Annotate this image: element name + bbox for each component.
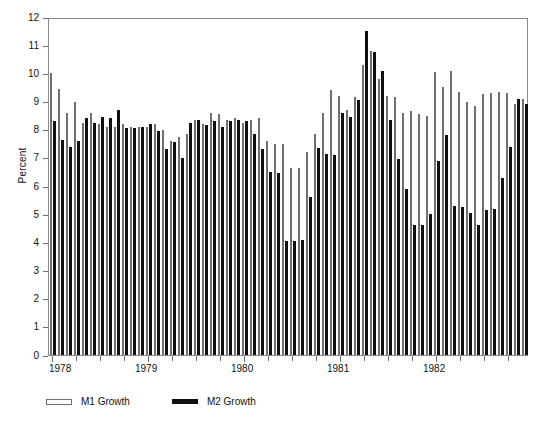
x-axis-tick (388, 356, 389, 361)
bar-m2 (93, 123, 96, 355)
bar-m1 (122, 124, 125, 355)
bar-m1 (202, 124, 205, 355)
bar-m2 (285, 241, 288, 355)
bar-m2 (325, 154, 328, 355)
bar-m1 (522, 99, 525, 355)
bar-m2 (525, 104, 528, 355)
bar-m2 (357, 100, 360, 355)
bar-m2 (309, 197, 312, 355)
bar-m1 (474, 106, 477, 355)
bar-m2 (389, 120, 392, 355)
bar-m1 (98, 124, 101, 355)
bar-m2 (173, 142, 176, 355)
bar-m2 (397, 159, 400, 355)
bar-m2 (445, 135, 448, 355)
x-axis-tick-label: 1978 (49, 363, 71, 374)
bar-m1 (306, 152, 309, 355)
y-axis-tick: 0 (0, 356, 48, 357)
bar-m1 (66, 113, 69, 355)
y-axis-tick-label: 5 (33, 208, 39, 221)
x-axis-tick (436, 356, 437, 362)
bar-m1 (346, 110, 349, 355)
bar-m2 (277, 173, 280, 355)
y-axis-tick-label: 1 (33, 320, 39, 333)
bar-m1 (218, 114, 221, 355)
bar-m1 (386, 96, 389, 355)
bar-m1 (82, 123, 85, 355)
bar-m1 (186, 134, 189, 355)
bar-m2 (77, 141, 80, 355)
bar-m2 (85, 118, 88, 355)
bar-m1 (130, 127, 133, 355)
bar-m2 (381, 71, 384, 355)
bar-m1 (514, 104, 517, 355)
bar-m1 (322, 113, 325, 355)
y-axis-tick: 1 (0, 327, 48, 328)
bar-m2 (117, 110, 120, 355)
bar-m1 (442, 87, 445, 355)
x-axis-tick (244, 356, 245, 362)
chart-legend: M1 Growth M2 Growth (46, 396, 256, 407)
plot-area (48, 18, 528, 356)
bar-m2 (149, 124, 152, 355)
bar-m2 (197, 120, 200, 355)
bar-m2 (133, 128, 136, 355)
bar-m2 (181, 158, 184, 355)
bar-m2 (101, 117, 104, 355)
bar-m1 (434, 72, 437, 355)
bar-m1 (258, 118, 261, 355)
bar-m2 (477, 225, 480, 355)
bar-m2 (229, 121, 232, 355)
x-axis-tick-label: 1981 (327, 363, 349, 374)
x-axis-tick (508, 356, 509, 361)
bar-m2 (341, 113, 344, 355)
bar-m2 (485, 210, 488, 355)
bar-m1 (370, 51, 373, 355)
x-axis-tick (76, 356, 77, 361)
y-axis-tick: 11 (0, 46, 48, 47)
bar-m2 (125, 128, 128, 355)
legend-label-m2: M2 Growth (207, 396, 256, 407)
x-axis-tick (364, 356, 365, 361)
bar-m2 (493, 209, 496, 355)
bar-m2 (469, 213, 472, 355)
x-axis-tick (268, 356, 269, 361)
bar-m2 (373, 52, 376, 355)
bar-m2 (269, 172, 272, 355)
x-axis-tick (484, 356, 485, 361)
bar-series-container (49, 19, 527, 355)
x-axis-tick (148, 356, 149, 362)
x-axis-tick (100, 356, 101, 361)
bar-m1 (450, 71, 453, 355)
bar-m2 (453, 206, 456, 355)
bar-m1 (162, 130, 165, 355)
x-axis-tick (340, 356, 341, 362)
x-axis-tick (172, 356, 173, 361)
bar-m1 (106, 127, 109, 355)
bar-m2 (349, 117, 352, 355)
bar-m1 (498, 92, 501, 355)
legend-swatch-m2-icon (172, 399, 198, 404)
x-axis-tick (124, 356, 125, 361)
bar-m2 (261, 149, 264, 355)
bar-m2 (301, 240, 304, 355)
legend-item-m2: M2 Growth (172, 396, 256, 407)
y-axis-tick-label: 2 (33, 292, 39, 305)
bar-m1 (250, 120, 253, 355)
bar-m1 (178, 137, 181, 355)
bar-m2 (213, 121, 216, 355)
bar-m2 (429, 214, 432, 355)
x-axis-tick (52, 356, 53, 362)
y-axis-tick: 5 (0, 215, 48, 216)
x-axis-tick (292, 356, 293, 361)
bar-m1 (426, 116, 429, 355)
bar-m2 (405, 189, 408, 355)
bar-m1 (298, 168, 301, 355)
bar-m1 (114, 127, 117, 355)
bar-m1 (146, 127, 149, 355)
bar-m2 (53, 121, 56, 355)
bar-m1 (354, 97, 357, 355)
y-axis-tick: 7 (0, 158, 48, 159)
y-axis-tick-label: 4 (33, 236, 39, 249)
x-axis-tick-label: 1979 (135, 363, 157, 374)
